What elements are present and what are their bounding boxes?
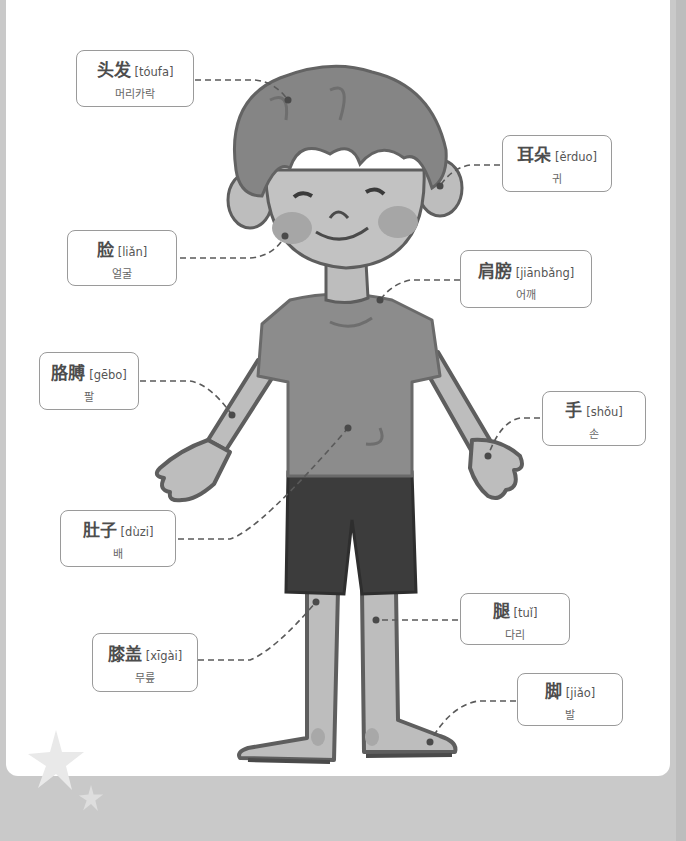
shirt xyxy=(258,294,440,476)
label-knee: 膝盖[xīgài] 무릎 xyxy=(92,633,198,692)
small-star-icon xyxy=(78,784,104,812)
label-face: 脸[liǎn] 얼굴 xyxy=(67,230,177,286)
pinyin: [dùzi] xyxy=(121,525,154,539)
hanzi: 肚子 xyxy=(83,516,117,541)
label-hand: 手[shǒu] 손 xyxy=(542,391,646,446)
korean: 배 xyxy=(113,545,123,561)
korean: 발 xyxy=(565,706,575,722)
hanzi: 脚 xyxy=(545,677,562,702)
pinyin: [jiǎo] xyxy=(566,686,595,700)
label-belly: 肚子[dùzi] 배 xyxy=(60,510,176,567)
korean: 얼굴 xyxy=(112,265,132,281)
pinyin: [tuǐ] xyxy=(514,606,538,620)
pinyin: [tóufa] xyxy=(135,65,174,79)
label-ear: 耳朵[ěrduo] 귀 xyxy=(502,135,612,192)
shorts xyxy=(286,472,416,594)
hanzi: 胳膊 xyxy=(51,359,85,384)
label-arm: 胳膊[gēbo] 팔 xyxy=(39,352,139,410)
korean: 어깨 xyxy=(516,286,536,302)
pinyin: [liǎn] xyxy=(118,245,148,259)
hanzi: 耳朵 xyxy=(517,141,551,166)
hanzi: 脸 xyxy=(97,236,114,261)
pinyin: [shǒu] xyxy=(586,405,623,419)
hanzi: 头发 xyxy=(97,56,131,81)
hanzi: 手 xyxy=(565,396,582,421)
korean: 머리카락 xyxy=(115,85,155,101)
pinyin: [gēbo] xyxy=(89,368,127,382)
pinyin: [ěrduo] xyxy=(555,150,597,164)
korean: 손 xyxy=(589,425,599,441)
korean: 귀 xyxy=(552,170,562,186)
label-leg: 腿[tuǐ] 다리 xyxy=(460,593,570,645)
korean: 다리 xyxy=(505,626,525,642)
label-shoulder: 肩膀[jiānbǎng] 어깨 xyxy=(460,250,592,308)
hanzi: 膝盖 xyxy=(108,640,142,665)
hanzi: 腿 xyxy=(493,597,510,622)
label-foot: 脚[jiǎo] 발 xyxy=(517,673,623,726)
korean: 무릎 xyxy=(135,669,155,685)
pinyin: [xīgài] xyxy=(146,649,183,663)
pinyin: [jiānbǎng] xyxy=(516,266,575,280)
korean: 팔 xyxy=(84,388,94,404)
hanzi: 肩膀 xyxy=(478,257,512,282)
legs xyxy=(239,590,455,762)
label-hair: 头发[tóufa] 머리카락 xyxy=(76,50,194,107)
star-icon xyxy=(26,728,86,792)
